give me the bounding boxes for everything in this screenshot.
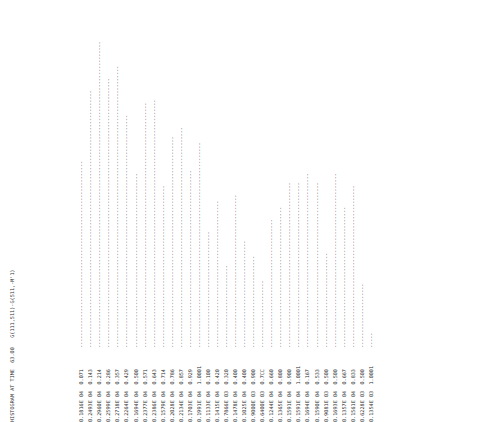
- histogram-row: 0.6228E 03 0.500---------------------: [358, 0, 367, 422]
- row-label: 0.1816E 04 0.071: [77, 369, 86, 422]
- histogram-row: 0.2718E 04 0.357------------------------…: [113, 0, 122, 422]
- row-label: 0.9000E 03 0.900: [249, 369, 258, 422]
- row-bar: ----------------------------------------…: [195, 143, 204, 348]
- histogram-row: 0.1590E 04 0.533------------------------…: [313, 0, 322, 422]
- histogram-row: 0.9000E 03 0.900------------------------…: [249, 0, 258, 422]
- row-bar: -----------------------------------: [240, 241, 249, 348]
- histogram-row: 0.1703E 04 0.929------------------------…: [186, 0, 195, 422]
- histogram-row: 0.1694E 04 0.167------------------------…: [303, 0, 312, 422]
- histogram-row: 0.2377E 04 0.571------------------------…: [141, 0, 150, 422]
- histogram-row: 0.1133E 04 0.100------------------------…: [204, 0, 213, 422]
- page-title: HISTOGRAM AT TIME 63.00 G(111,511)-G(511…: [8, 269, 17, 422]
- histogram-row: 0.1591E 04 1.0001-----------------------…: [294, 0, 303, 422]
- row-label: 0.1694E 04 0.167: [303, 369, 312, 422]
- row-label: 0.1693E 04 0.500: [331, 369, 340, 422]
- row-bar: ----------------------------------------…: [231, 195, 240, 348]
- row-label: 0.1579E 04 0.714: [159, 369, 168, 422]
- histogram-row: 0.1357E 04 0.667------------------------…: [340, 0, 349, 422]
- histogram-row: 0.1365E 04 0.800------------------------…: [276, 0, 285, 422]
- histogram-row: 0.2960E 04 0.214------------------------…: [95, 0, 104, 422]
- row-bar: ----------------------------------------…: [313, 182, 322, 348]
- row-label: 0.1357E 04 0.667: [340, 369, 349, 422]
- histogram-row: 0.2264E 04 0.429------------------------…: [122, 0, 131, 422]
- row-label: 0.1561E 04 0.833: [349, 369, 358, 422]
- histogram-row: 0.9081E 03 0.500------------------------…: [322, 0, 331, 422]
- row-bar: ----------------------------------------…: [77, 161, 86, 348]
- row-label: 0.1591E 04 1.0001: [294, 366, 303, 422]
- row-bar: ----------------------------------------…: [168, 136, 177, 348]
- row-bar: -------------------------------: [322, 253, 331, 348]
- histogram-row: 0.2493E 04 0.143------------------------…: [86, 0, 95, 422]
- histogram-row: 0.2599E 04 0.286------------------------…: [104, 0, 113, 422]
- row-label: 0.1244E 04 0.660: [267, 369, 276, 422]
- row-label: 0.1025E 04 0.400: [240, 369, 249, 422]
- histogram-row: 0.2134E 04 0.857------------------------…: [177, 0, 186, 422]
- row-label: 0.1415E 04 0.420: [213, 369, 222, 422]
- row-label: 0.2960E 04 0.214: [95, 369, 104, 422]
- histogram-printout: HISTOGRAM AT TIME 63.00 G(111,511)-G(511…: [0, 0, 484, 422]
- histogram-row: 0.6400E 03 0.7CC----------------------: [258, 0, 267, 422]
- row-bar: ----------------------------------------…: [150, 100, 159, 348]
- histogram-row: 0.1694E 04 0.500------------------------…: [132, 0, 141, 422]
- row-bar: ----------------------------------------…: [122, 115, 131, 348]
- row-bar: ----------------------------------------…: [276, 207, 285, 348]
- row-label: 0.6400E 03 0.7CC: [258, 369, 267, 422]
- row-bar: ----------------------------------------…: [113, 66, 122, 348]
- row-bar: --------------------------------------: [204, 231, 213, 348]
- histogram-row: 0.7866E 03 0.320------------------------…: [222, 0, 231, 422]
- row-label: 0.1478E 04 0.400: [231, 369, 240, 422]
- row-label: 0.1991E 04 1.0001: [195, 366, 204, 422]
- row-label: 0.2377E 04 0.571: [141, 369, 150, 422]
- histogram-row: 0.1591E 04 0.900------------------------…: [285, 0, 294, 422]
- histogram-row: 0.1561E 04 0.833------------------------…: [349, 0, 358, 422]
- histogram-row: 0.1579E 04 0.714------------------------…: [159, 0, 168, 422]
- histogram-row: 0.1991E 04 1.0001-----------------------…: [195, 0, 204, 422]
- histogram-row: 0.1478E 04 0.400------------------------…: [231, 0, 240, 422]
- histogram-row: 0.1025E 04 0.400------------------------…: [240, 0, 249, 422]
- printout-sheet: HISTOGRAM AT TIME 63.00 G(111,511)-G(511…: [0, 0, 484, 422]
- row-label: 0.2134E 04 0.857: [177, 369, 186, 422]
- row-label: 0.1354E 03 1.0001: [367, 366, 376, 422]
- row-label: 0.1694E 04 0.500: [132, 369, 141, 422]
- row-label: 0.1590E 04 0.533: [313, 369, 322, 422]
- row-bar: ---------------------: [358, 284, 367, 348]
- row-bar: ----------------------------------------…: [177, 127, 186, 348]
- histogram-row: 0.2386E 04 0.643------------------------…: [150, 0, 159, 422]
- row-bar: ------------------------------: [249, 256, 258, 348]
- histogram-row: 0.1816E 04 0.071------------------------…: [77, 0, 86, 422]
- row-bar: ----------------------------------------…: [186, 170, 195, 348]
- row-label: 0.9081E 03 0.500: [322, 369, 331, 422]
- row-bar: ----------------------------------------…: [213, 201, 222, 348]
- row-label: 0.1703E 04 0.929: [186, 369, 195, 422]
- row-label: 0.2028E 04 0.786: [168, 369, 177, 422]
- row-bar: ----------------------------------------…: [159, 185, 168, 348]
- row-bar: ----------------------------------------…: [132, 173, 141, 348]
- row-label: 0.2493E 04 0.143: [86, 369, 95, 422]
- row-label: 0.2264E 04 0.429: [122, 369, 131, 422]
- row-label: 0.7866E 03 0.320: [222, 369, 231, 422]
- histogram-row: 0.1415E 04 0.420------------------------…: [213, 0, 222, 422]
- histogram-row: 0.1244E 04 0.660------------------------…: [267, 0, 276, 422]
- row-bar: ----------------------------------------…: [141, 103, 150, 348]
- histogram-row: 0.1693E 04 0.500------------------------…: [331, 0, 340, 422]
- row-bar: ----------------------------------------…: [104, 78, 113, 348]
- row-bar: -----: [367, 333, 376, 348]
- histogram-rows: 0.1816E 04 0.071------------------------…: [45, 0, 396, 422]
- row-label: 0.1591E 04 0.900: [285, 369, 294, 422]
- row-bar: ----------------------: [258, 281, 267, 348]
- row-label: 0.6228E 03 0.500: [358, 369, 367, 422]
- histogram-row: 0.1354E 03 1.0001-----: [367, 0, 376, 422]
- row-bar: ---------------------------: [222, 265, 231, 348]
- row-label: 0.2599E 04 0.286: [104, 369, 113, 422]
- row-label: 0.1365E 04 0.800: [276, 369, 285, 422]
- row-bar: ----------------------------------------…: [349, 185, 358, 348]
- histogram-row: 0.2028E 04 0.786------------------------…: [168, 0, 177, 422]
- row-bar: ----------------------------------------…: [95, 41, 104, 348]
- row-bar: ----------------------------------------…: [294, 182, 303, 348]
- row-bar: ----------------------------------------…: [86, 90, 95, 348]
- row-bar: ----------------------------------------…: [331, 173, 340, 348]
- row-label: 0.1133E 04 0.100: [204, 369, 213, 422]
- row-bar: ----------------------------------------…: [303, 173, 312, 348]
- row-label: 0.2386E 04 0.643: [150, 369, 159, 422]
- row-bar: ----------------------------------------…: [340, 207, 349, 348]
